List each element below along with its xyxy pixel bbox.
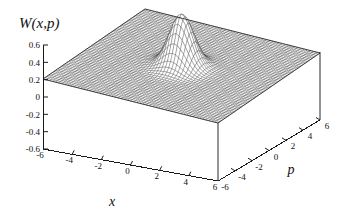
- z-tick-label: 0: [36, 92, 41, 102]
- x-axis-ticks: -6-4-20246: [36, 150, 218, 192]
- z-axis-ticks: 0.60.40.20-0.2-0.4-0.6: [26, 40, 48, 154]
- p-tick-label: -2: [255, 162, 263, 172]
- p-tick-mark: [299, 128, 303, 131]
- x-tick-mark: [160, 166, 162, 170]
- plot-canvas: 0.60.40.20-0.2-0.4-0.6 -6-4-20246 -6-4-2…: [0, 0, 346, 214]
- p-tick-mark: [265, 148, 269, 151]
- x-tick-label: 6: [213, 182, 218, 192]
- p-tick-label: -4: [238, 172, 246, 182]
- x-tick-mark: [72, 150, 74, 154]
- x-tick-label: 2: [154, 171, 159, 181]
- p-tick-label: 4: [308, 131, 313, 141]
- p-axis-ticks: -6-4-20246: [221, 118, 330, 193]
- x-tick-mark: [101, 156, 103, 160]
- p-tick-mark: [248, 158, 252, 161]
- z-tick-label: 0.6: [29, 40, 41, 50]
- x-tick-label: -2: [95, 161, 103, 171]
- z-tick-label: 0.2: [29, 75, 40, 85]
- x-tick-label: 4: [184, 177, 189, 187]
- x-tick-label: -6: [36, 150, 44, 160]
- x-tick-mark: [189, 172, 191, 176]
- z-tick-label: -0.4: [26, 127, 41, 137]
- p-tick-label: -6: [221, 182, 229, 192]
- p-tick-label: 2: [291, 141, 296, 151]
- z-tick-label: 0.4: [29, 58, 41, 68]
- x-tick-label: -4: [65, 155, 73, 165]
- x-tick-mark: [131, 161, 133, 165]
- p-tick-label: 6: [325, 121, 330, 131]
- wigner-function-surface-plot: 0.60.40.20-0.2-0.4-0.6 -6-4-20246 -6-4-2…: [0, 0, 346, 214]
- z-tick-label: -0.2: [26, 110, 40, 120]
- p-tick-label: 0: [274, 152, 279, 162]
- x-axis-label: x: [108, 194, 116, 209]
- p-tick-mark: [282, 138, 286, 141]
- surface-mesh: [43, 9, 320, 123]
- p-tick-mark: [231, 168, 235, 171]
- x-tick-label: 0: [125, 166, 130, 176]
- plot-title: W(x,p): [19, 15, 59, 32]
- p-axis-label: p: [287, 162, 295, 177]
- p-tick-mark: [316, 118, 320, 121]
